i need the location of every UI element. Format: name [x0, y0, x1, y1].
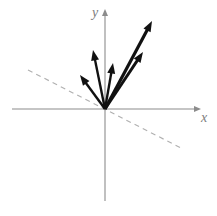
- y-axis-label: y: [92, 6, 98, 20]
- vectors-group: [80, 21, 152, 109]
- vector-diagram-figure: y x: [0, 0, 217, 216]
- x-axis-arrowhead-icon: [194, 106, 201, 112]
- vector-arrowhead-icon: [144, 21, 152, 32]
- vector-arrowhead-icon: [107, 63, 115, 74]
- x-axis-label: x: [201, 111, 207, 125]
- y-axis-arrowhead-icon: [102, 9, 108, 16]
- vector-diagram-canvas: [0, 0, 217, 216]
- vector-arrowhead-icon: [91, 50, 99, 61]
